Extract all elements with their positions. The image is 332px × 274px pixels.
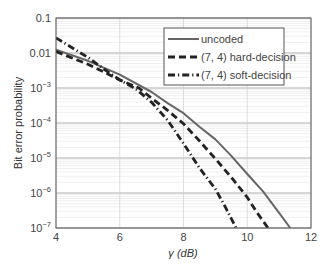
x-tick-label: 4	[53, 231, 59, 243]
x-tick-label: 6	[117, 231, 123, 243]
x-tick-label: 10	[241, 231, 253, 243]
y-tick-label: 10−3	[30, 80, 51, 94]
y-tick-label: 10−6	[30, 185, 51, 199]
x-axis-gamma: γ	[168, 247, 177, 259]
x-tick-labels: 4681012	[53, 231, 317, 243]
x-tick-label: 12	[305, 231, 317, 243]
x-axis-unit: (dB)	[177, 247, 198, 259]
x-axis-label: γ (dB)	[168, 247, 198, 259]
y-tick-label: 10−5	[30, 150, 51, 164]
x-tick-label: 8	[180, 231, 186, 243]
y-tick-label: 0.1	[36, 12, 51, 24]
legend-label: (7, 4) hard-decision	[201, 51, 296, 63]
legend-label: uncoded	[201, 33, 243, 45]
legend-label: (7, 4) soft-decision	[201, 69, 291, 81]
y-tick-label: 10−7	[30, 220, 51, 234]
y-tick-label: 0.01	[30, 47, 51, 59]
y-axis-label: Bit error probability	[12, 76, 24, 169]
y-tick-label: 10−4	[30, 115, 51, 129]
legend: uncoded(7, 4) hard-decision(7, 4) soft-d…	[164, 28, 296, 85]
y-tick-labels: 10−710−610−510−410−30.010.1	[30, 12, 51, 234]
ber-chart: 10−710−610−510−410−30.010.1 4681012 γ (d…	[0, 0, 332, 274]
